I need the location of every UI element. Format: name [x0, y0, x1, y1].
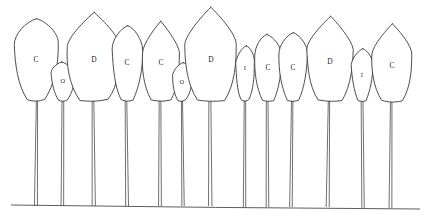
- trunk-edge: [292, 98, 293, 207]
- crown-type-label: C: [124, 58, 129, 67]
- trunk-edge: [127, 97, 129, 206]
- crown-type-label: O: [61, 77, 66, 84]
- trunk-edge: [161, 97, 162, 206]
- tree-row-figure: CODCCODICCDIC: [0, 0, 428, 224]
- trunk-edge: [268, 98, 269, 207]
- tree-trunk: [389, 98, 392, 208]
- trunk-edge: [361, 98, 362, 208]
- trunk-edge: [125, 97, 126, 206]
- trunk-edge: [363, 98, 364, 208]
- trunks-group: [34, 96, 392, 208]
- trunk-edge: [211, 96, 212, 206]
- trunk-edge: [389, 98, 390, 208]
- trunk-edge: [243, 98, 244, 207]
- tree-trunk: [159, 97, 162, 206]
- trunk-edge: [34, 96, 36, 206]
- crown-type-label: D: [91, 55, 97, 64]
- trunk-edge: [326, 97, 328, 207]
- crown-type-label: I: [361, 71, 363, 78]
- tree-trunk: [61, 98, 64, 206]
- crown-type-label: C: [33, 55, 38, 64]
- trunk-edge: [182, 98, 184, 206]
- tree-trunk: [125, 97, 128, 206]
- ground-line: [11, 205, 420, 209]
- crown-type-label: D: [327, 57, 333, 66]
- crown-type-label: C: [389, 61, 394, 70]
- crown-type-label: O: [180, 78, 185, 85]
- trunk-edge: [290, 98, 292, 207]
- crown-type-label: D: [208, 55, 214, 64]
- crown-type-label: C: [265, 63, 270, 72]
- tree-trunk: [266, 98, 269, 207]
- tree-trunk: [181, 98, 184, 206]
- tree-trunk: [326, 97, 329, 207]
- crown-type-label: C: [290, 63, 295, 72]
- tree-row-drawing: CODCCODICCDIC: [0, 0, 428, 224]
- crown-type-label: I: [244, 64, 246, 71]
- tree-trunk: [92, 96, 95, 206]
- trunk-edge: [61, 98, 62, 206]
- tree-trunk: [209, 96, 212, 206]
- trunk-edge: [94, 96, 96, 206]
- crown-type-label: C: [158, 58, 163, 67]
- tree-trunk: [34, 96, 37, 206]
- ground-group: [11, 205, 420, 209]
- tree-trunk: [361, 98, 364, 208]
- tree-trunk: [290, 98, 293, 207]
- trunk-edge: [159, 97, 160, 206]
- tree-crown: [236, 46, 255, 101]
- tree-trunk: [243, 98, 245, 207]
